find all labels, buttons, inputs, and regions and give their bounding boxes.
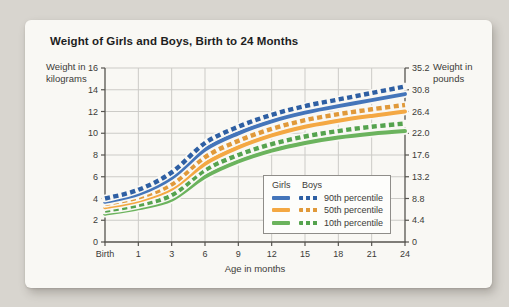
x-tick-label: 1: [136, 249, 141, 259]
legend-row-10th: 10th percentile: [272, 218, 383, 228]
kg-tick-label: 2: [93, 215, 98, 225]
kg-tick-label: 10: [88, 128, 98, 138]
x-axis-title: Age in months: [195, 263, 315, 274]
lb-tick-label: 0: [412, 237, 417, 247]
kg-tick-label: 6: [93, 172, 98, 182]
lb-tick-label: 4.4: [412, 215, 425, 225]
legend-label-90th: 90th percentile: [324, 193, 383, 203]
legend-label-10th: 10th percentile: [324, 218, 383, 228]
x-tick-label: 9: [236, 249, 241, 259]
boys-10th-swatch: [299, 221, 318, 225]
x-tick-label: 18: [333, 249, 343, 259]
chart-card: Weight of Girls and Boys, Birth to 24 Mo…: [25, 20, 492, 288]
legend-row-90th: 90th percentile: [272, 193, 383, 203]
lb-tick-label: 8.8: [412, 194, 425, 204]
legend-boys-header: Boys: [302, 180, 322, 190]
x-tick-label: Birth: [96, 249, 115, 259]
boys-90th-swatch: [299, 196, 318, 200]
boys-50th-swatch: [299, 208, 318, 212]
x-tick-label: 15: [300, 249, 310, 259]
x-tick-label: 6: [202, 249, 207, 259]
girls-90th-swatch: [272, 196, 290, 200]
kg-tick-label: 16: [88, 63, 98, 73]
legend-label-50th: 50th percentile: [324, 205, 383, 215]
kg-tick-label: 0: [93, 237, 98, 247]
x-tick-label: 12: [267, 249, 277, 259]
legend-row-50th: 50th percentile: [272, 205, 383, 215]
kg-tick-label: 12: [88, 107, 98, 117]
lb-tick-label: 35.2: [412, 63, 430, 73]
x-tick-label: 24: [400, 249, 410, 259]
lb-tick-label: 17.6: [412, 150, 430, 160]
x-tick-label: 21: [367, 249, 377, 259]
lb-tick-label: 13.2: [412, 172, 430, 182]
growth-chart-plot: 0024.448.8613.2817.61022.01226.41430.816…: [25, 20, 492, 288]
legend-header: Girls Boys: [272, 180, 383, 190]
girls-10th-swatch: [272, 221, 290, 225]
legend-girls-header: Girls: [272, 180, 302, 190]
lb-tick-label: 26.4: [412, 107, 430, 117]
girls-50th-swatch: [272, 208, 290, 212]
chart-legend: Girls Boys 90th percentile 50th percenti…: [263, 175, 391, 234]
x-tick-label: 3: [169, 249, 174, 259]
kg-tick-label: 8: [93, 150, 98, 160]
kg-tick-label: 14: [88, 85, 98, 95]
lb-tick-label: 22.0: [412, 128, 430, 138]
lb-tick-label: 30.8: [412, 85, 430, 95]
kg-tick-label: 4: [93, 194, 98, 204]
